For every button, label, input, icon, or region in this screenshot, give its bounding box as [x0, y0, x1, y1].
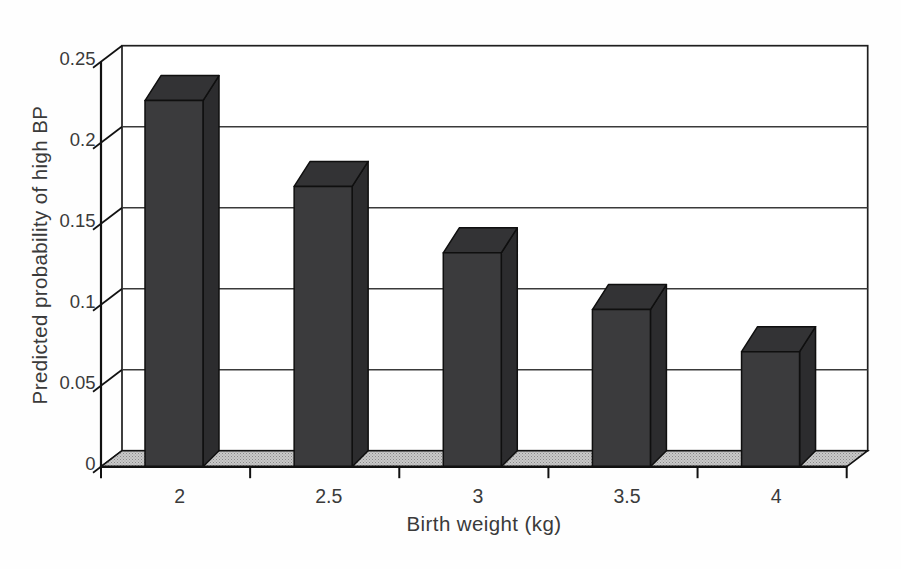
bar-front-face	[742, 352, 800, 467]
y-tick	[93, 208, 122, 230]
y-tick-label: 0.1	[70, 291, 96, 312]
bar-side-face	[650, 285, 666, 467]
x-tick-label: 2.5	[315, 485, 342, 507]
chart-canvas: 00.050.10.150.20.2522.533.54	[0, 0, 901, 569]
bar	[742, 327, 816, 467]
bar	[592, 285, 666, 467]
y-tick-label: 0.25	[59, 48, 95, 69]
y-tick-label: 0.2	[70, 129, 96, 150]
bar	[294, 161, 368, 466]
y-tick	[93, 127, 122, 149]
y-tick	[93, 46, 122, 68]
bar-front-face	[592, 310, 650, 467]
bar-side-face	[501, 228, 517, 467]
figure-3d-bar-chart: 00.050.10.150.20.2522.533.54 Predicted p…	[0, 0, 901, 569]
y-tick-label: 0.05	[59, 372, 95, 393]
bar-front-face	[145, 101, 203, 467]
x-tick-label: 2	[174, 485, 185, 507]
y-tick	[93, 289, 122, 311]
bar-side-face	[352, 161, 368, 466]
bar	[443, 228, 517, 467]
x-tick-label: 3.5	[613, 485, 640, 507]
y-tick-label: 0.15	[59, 210, 95, 231]
x-axis-title: Birth weight (kg)	[407, 512, 562, 536]
y-tick	[93, 370, 122, 392]
y-tick-label: 0	[85, 453, 95, 474]
y-axis-title: Predicted probability of high BP	[28, 106, 52, 405]
bar-front-face	[294, 186, 352, 466]
bar-side-face	[203, 76, 219, 467]
bar	[145, 76, 219, 467]
x-tick-label: 3	[472, 485, 483, 507]
x-tick-label: 4	[771, 485, 782, 507]
bar-front-face	[443, 253, 501, 467]
